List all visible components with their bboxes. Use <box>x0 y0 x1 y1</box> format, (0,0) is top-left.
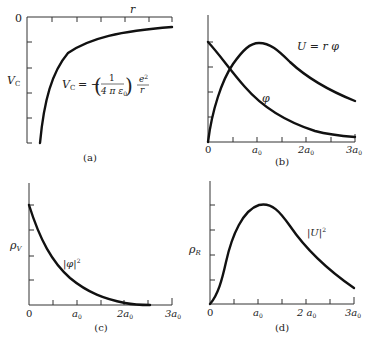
svg-text:e2: e2 <box>139 73 148 84</box>
svg-text:4 π ε0: 4 π ε0 <box>100 86 127 97</box>
svg-text:a0: a0 <box>252 144 262 156</box>
svg-text:3a0: 3a0 <box>346 144 362 156</box>
panel-d-y-label: ρR <box>188 243 201 257</box>
figure-canvas: 0 r VC VC = − ( 1 4 π ε0 ) e2 r (a) <box>0 0 370 339</box>
panel-d-x-tick-labels: 0 a0 2 a0 3a0 <box>207 307 361 319</box>
svg-text:3a0: 3a0 <box>345 307 361 319</box>
panel-a-caption: (a) <box>83 152 97 163</box>
svg-text:a0: a0 <box>253 307 263 319</box>
panel-c-caption: (c) <box>94 322 108 333</box>
panel-c: |φ|2 ρV 0 a0 2a0 3a0 (c) <box>9 183 181 333</box>
svg-text:2 a0: 2 a0 <box>296 307 317 319</box>
panel-c-y-label: ρV <box>9 239 22 253</box>
panel-a-equation: VC = − ( 1 4 π ε0 ) e2 r <box>62 73 149 98</box>
panel-b: U = r φ φ 0 a0 2a0 3a0 (b) <box>205 15 362 167</box>
panel-b-phi-label: φ <box>262 92 270 105</box>
svg-text:2a0: 2a0 <box>297 144 314 156</box>
panel-d-U-squared-curve <box>210 204 354 304</box>
panel-b-caption: (b) <box>275 156 289 167</box>
svg-text:a0: a0 <box>72 308 82 320</box>
panel-d-caption: (d) <box>275 322 289 333</box>
panel-d-curve-label: |U|2 <box>307 226 326 239</box>
svg-text:0: 0 <box>205 144 211 155</box>
panel-d-bottom-ticks <box>234 297 354 304</box>
panel-d: |U|2 ρR 0 a0 2 a0 3a0 (d) <box>188 181 361 333</box>
panel-b-x-tick-labels: 0 a0 2a0 3a0 <box>205 144 362 156</box>
svg-text:0: 0 <box>207 307 213 318</box>
panel-d-left-ticks <box>210 205 215 280</box>
panel-b-phi-curve <box>208 42 355 137</box>
svg-text:VC: VC <box>62 78 75 92</box>
panel-a-coulomb-curve <box>40 27 172 143</box>
panel-a-top-ticks <box>52 17 172 22</box>
panel-a: 0 r VC VC = − ( 1 4 π ε0 ) e2 r (a) <box>7 3 172 163</box>
panel-c-phi-squared-curve <box>29 205 150 305</box>
svg-text:): ) <box>125 74 133 98</box>
panel-a-y-label: VC <box>7 74 20 88</box>
panel-a-x-label: r <box>130 3 136 16</box>
svg-text:2a0: 2a0 <box>116 308 133 320</box>
panel-b-U-curve <box>208 43 355 142</box>
svg-text:1: 1 <box>109 73 115 83</box>
svg-text:0: 0 <box>26 308 32 319</box>
panel-b-left-ticks <box>208 42 213 117</box>
svg-text:3a0: 3a0 <box>165 308 181 320</box>
svg-text:r: r <box>140 85 145 95</box>
panel-c-curve-label: |φ|2 <box>63 257 81 270</box>
panel-a-zero-label: 0 <box>15 12 22 25</box>
panel-a-left-ticks <box>27 42 32 143</box>
panel-c-x-tick-labels: 0 a0 2a0 3a0 <box>26 308 181 320</box>
panel-b-U-label: U = r φ <box>297 40 339 53</box>
